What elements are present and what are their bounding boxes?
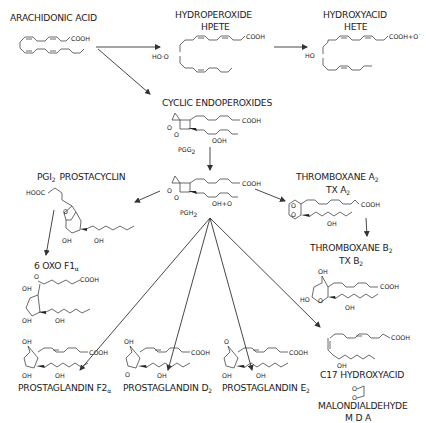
pgh2-ring-o1: O	[167, 187, 172, 194]
pge2-oxo: O	[224, 338, 229, 345]
pgd2-label: PROSTAGLANDIN D2	[123, 382, 212, 394]
pgh2: O O COOH OH+O PGH2	[167, 176, 261, 218]
oxo-oh2: OH	[22, 317, 32, 324]
oxo-cooh: COOH	[80, 276, 99, 283]
arachidonic-acid: ARACHIDONIC ACID COOH	[10, 12, 97, 53]
arrow-pgh2-to-pgd2	[168, 218, 210, 370]
oxo-oh3: OH	[55, 317, 65, 324]
txa2-label: THROMBOXANE A2	[295, 171, 379, 183]
pgg2-ring-o2: O	[174, 131, 179, 138]
hete-cooh: COOH+O˙	[389, 33, 421, 40]
txb2-oh1: OH	[318, 268, 328, 275]
hete-label: HYDROXYACID	[323, 9, 387, 20]
hpete: HYDROPEROXIDE HPETE HO·O COOH	[152, 9, 265, 72]
txa2: THROMBOXANE A2 TX A2 O O COOH OH	[289, 171, 380, 227]
oxo-f1a: 6 OXO F1α O COOH OH OH OH	[22, 260, 99, 324]
txb2-ho: HO	[300, 296, 310, 303]
c17-cooh: COOH	[391, 334, 410, 341]
txa2-oh: OH	[327, 220, 337, 227]
txa2-o2: O	[291, 211, 296, 218]
pgi2: PGI2PROSTACYCLIN HOOC O OH OH	[26, 171, 134, 244]
pgf2a-label: PROSTAGLANDIN F2α	[18, 382, 111, 394]
txb2-abbr: TX B2	[338, 255, 363, 267]
pgh2-oh: OH+O	[212, 200, 232, 207]
pgg2-label: CYCLIC ENDOPEROXIDES	[162, 97, 272, 108]
pgf2a-cooh: COOH	[89, 349, 108, 356]
txb2-oh3: OH	[345, 304, 355, 311]
mda-abbr: M D A	[345, 412, 372, 423]
mda-label: MALONDIALDEHYDE	[318, 400, 408, 411]
arrow-pgh2-to-pgi2	[135, 191, 160, 202]
arrow-pgh2-to-txa2	[255, 189, 285, 201]
pge2-oh1: OH	[222, 372, 232, 379]
pge2-label: PROSTAGLANDIN E2	[222, 382, 310, 394]
txb2-label: THROMBOXANE B2	[309, 242, 393, 254]
pgf2a: OH COOH OH OH PROSTAGLANDIN F2α	[18, 338, 111, 394]
hete: HYDROXYACID HETE HO COOH+O˙	[305, 9, 421, 70]
oxo-oh1: OH	[22, 285, 32, 292]
txa2-o1: O	[291, 202, 296, 209]
arrow-pgi2-to-oxo	[46, 210, 54, 255]
pge2-cooh: COOH	[289, 349, 308, 356]
hete-abbr: HETE	[344, 21, 368, 32]
txb2-ring-o: O	[318, 297, 323, 304]
pgd2: OH COOH O OH PROSTAGLANDIN D2	[123, 338, 212, 394]
hpete-label: HYDROPEROXIDE	[175, 9, 252, 20]
pathway-diagram: ARACHIDONIC ACID COOH HYDROPEROXIDE HPET…	[0, 0, 426, 423]
pgi2-hooc: HOOC	[26, 189, 46, 196]
pgf2a-oh3: OH	[55, 372, 65, 379]
pgg2: CYCLIC ENDOPEROXIDES O O COOH OOH PGG2	[162, 97, 272, 155]
pgi2-oh2: OH	[94, 237, 104, 244]
arrow-aa-to-pgg2	[98, 49, 150, 94]
arachidonic-acid-label: ARACHIDONIC ACID	[10, 12, 97, 23]
arrow-pgh2-to-pge2	[210, 218, 252, 370]
hete-ho: HO	[305, 52, 315, 59]
pgi2-ring-o: O	[63, 208, 68, 215]
pgi2-label: PGI2PROSTACYCLIN	[37, 171, 126, 183]
pgg2-abbr: PGG2	[178, 146, 196, 155]
txb2-cooh: COOH	[380, 283, 399, 290]
arrow-pgh2-to-c17	[210, 218, 320, 327]
mda-o1: O	[352, 385, 357, 392]
pgh2-ring-o2: O	[174, 194, 179, 201]
arachidonic-acid-cooh: COOH	[71, 35, 90, 42]
pge2-oh2: OH	[256, 372, 266, 379]
pge2: O COOH OH OH PROSTAGLANDIN E2	[222, 338, 310, 394]
c17-hydroxyacid: COOH OH C17 HYDROXYACID	[320, 334, 410, 380]
pgd2-oh1: OH	[124, 338, 134, 345]
malondialdehyde: O O MALONDIALDEHYDE M D A	[318, 385, 408, 423]
pgg2-cooh: COOH	[242, 117, 261, 124]
arrow-txa2-to-txb2	[366, 218, 367, 236]
pgh2-abbr: PGH2	[180, 209, 197, 218]
txb2: THROMBOXANE B2 TX B2 OH COOH HO O OH	[300, 242, 399, 311]
pgd2-oxo: O	[125, 371, 130, 378]
pgi2-oh1: OH	[62, 237, 72, 244]
c17-oh: OH	[337, 362, 347, 369]
pgf2a-oh2: OH	[22, 372, 32, 379]
hpete-cooh: COOH	[246, 33, 265, 40]
hpete-abbr: HPETE	[201, 21, 230, 32]
c17-label: C17 HYDROXYACID	[320, 369, 404, 380]
txa2-abbr: TX A2	[325, 184, 350, 196]
pgd2-cooh: COOH	[191, 349, 210, 356]
pgd2-oh2: OH	[157, 372, 167, 379]
pgh2-cooh: COOH	[242, 180, 261, 187]
txa2-cooh: COOH	[361, 201, 380, 208]
pgf2a-oh1: OH	[22, 338, 32, 345]
hpete-hoo: HO·O	[152, 53, 169, 60]
pgg2-ring-o1: O	[167, 124, 172, 131]
oxo-label: 6 OXO F1α	[34, 260, 79, 272]
oxo-o: O	[34, 273, 39, 280]
pgg2-ooh: OOH	[212, 137, 227, 144]
